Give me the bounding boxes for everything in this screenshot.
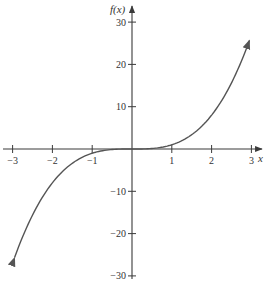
y-tick-label: 10 xyxy=(116,101,126,112)
x-tick-label: −1 xyxy=(87,155,98,166)
y-tick-label: 20 xyxy=(116,59,126,70)
y-axis-label: f(x) xyxy=(110,3,126,16)
y-tick-label: −10 xyxy=(110,186,126,197)
cubic-function-plot: −3−2−1123 x 302010−10−20−30 f(x) xyxy=(0,0,267,285)
y-tick-label: 30 xyxy=(116,17,126,28)
x-tick-label: −2 xyxy=(47,155,58,166)
x-tick-label: 3 xyxy=(249,155,254,166)
y-axis: 302010−10−20−30 f(x) xyxy=(110,3,136,281)
x-axis: −3−2−1123 x xyxy=(3,145,263,166)
y-tick-label: −30 xyxy=(110,270,126,281)
x-tick-label: 1 xyxy=(169,155,174,166)
x-axis-label: x xyxy=(257,152,263,164)
y-tick-label: −20 xyxy=(110,228,126,239)
x-tick-label: −3 xyxy=(7,155,18,166)
x-tick-label: 2 xyxy=(209,155,214,166)
